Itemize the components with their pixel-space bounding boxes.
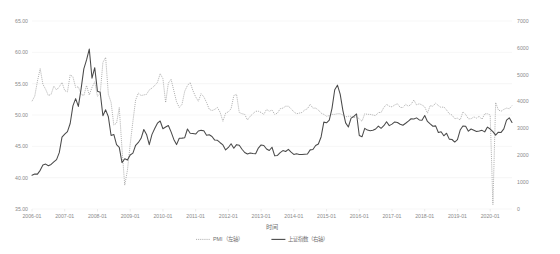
legend-label[interactable]: 上证指数（右轴） [288, 235, 328, 243]
x-tick-label: 2015-01 [317, 213, 336, 219]
x-axis-ticks: 2006-012007-012008-012009-012010-012011-… [22, 213, 499, 219]
x-axis-title: 时间 [266, 223, 278, 231]
left-tick-label: 55.00 [15, 81, 28, 87]
legend-label[interactable]: PMI（左轴） [213, 235, 243, 243]
series-line-index [32, 49, 512, 175]
chart-canvas: 35.0040.0045.0050.0055.0060.0065.00 0100… [0, 0, 560, 254]
right-tick-label: 0 [517, 206, 520, 212]
left-tick-label: 50.00 [15, 112, 28, 118]
series-line-pmi [32, 57, 512, 204]
x-tick-label: 2007-01 [55, 213, 74, 219]
x-tick-label: 2012-01 [219, 213, 238, 219]
chart-root: 35.0040.0045.0050.0055.0060.0065.00 0100… [0, 0, 560, 254]
left-tick-label: 60.00 [15, 49, 28, 55]
right-tick-label: 1000 [517, 179, 529, 185]
right-tick-label: 4000 [517, 98, 529, 104]
x-tick-label: 2020-01 [481, 213, 500, 219]
gridlines [32, 21, 512, 212]
right-tick-label: 2000 [517, 152, 529, 158]
x-tick-label: 2006-01 [22, 213, 41, 219]
left-tick-label: 35.00 [15, 206, 28, 212]
left-axis-ticks: 35.0040.0045.0050.0055.0060.0065.00 [15, 18, 28, 212]
x-tick-label: 2010-01 [153, 213, 172, 219]
dual-axis-line-chart: 35.0040.0045.0050.0055.0060.0065.00 0100… [0, 0, 560, 254]
series-layer [32, 49, 512, 205]
x-tick-label: 2014-01 [284, 213, 303, 219]
x-tick-label: 2013-01 [252, 213, 271, 219]
left-tick-label: 40.00 [15, 175, 28, 181]
x-tick-label: 2009-01 [121, 213, 140, 219]
x-tick-label: 2016-01 [350, 213, 369, 219]
left-tick-label: 65.00 [15, 18, 28, 24]
right-tick-label: 7000 [517, 18, 529, 24]
right-tick-label: 5000 [517, 72, 529, 78]
left-tick-label: 45.00 [15, 143, 28, 149]
x-tick-label: 2011-01 [186, 213, 205, 219]
x-tick-label: 2018-01 [415, 213, 434, 219]
chart-legend: PMI（左轴）上证指数（右轴） [196, 235, 328, 243]
x-tick-label: 2019-01 [448, 213, 467, 219]
x-tick-label: 2008-01 [88, 213, 107, 219]
right-tick-label: 6000 [517, 45, 529, 51]
x-tick-label: 2017-01 [382, 213, 401, 219]
right-axis-ticks: 01000200030004000500060007000 [517, 18, 529, 212]
right-tick-label: 3000 [517, 125, 529, 131]
